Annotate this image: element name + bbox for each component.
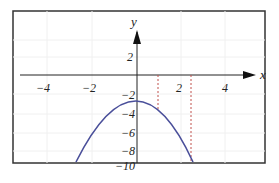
- y-axis-arrow-icon: [133, 30, 141, 44]
- y-axis-label: y: [129, 14, 137, 29]
- parabola-chart: x y −4 −2 2 4 2 −2 −4 −6 −8 −10: [0, 0, 279, 183]
- x-axis-arrow-icon: [243, 71, 256, 79]
- y-tick-label: −4: [121, 107, 135, 121]
- x-tick-label: −4: [36, 81, 50, 95]
- y-tick-label: −2: [121, 88, 135, 102]
- y-tick-label: −6: [121, 126, 135, 140]
- x-axis-label: x: [259, 67, 266, 82]
- x-tick-label: 4: [222, 81, 228, 95]
- y-tick-label: −8: [121, 144, 135, 158]
- x-tick-label: −2: [82, 81, 96, 95]
- y-tick-label: 2: [127, 50, 133, 64]
- y-tick-label: −10: [115, 159, 135, 173]
- x-tick-label: 2: [176, 81, 182, 95]
